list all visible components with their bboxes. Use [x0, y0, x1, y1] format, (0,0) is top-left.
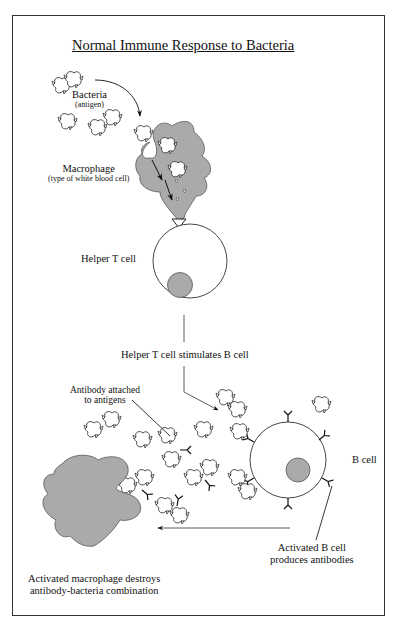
label-bacteria: Bacteria (antigen): [72, 89, 107, 109]
label-antibody-attached-1: Antibody attached: [70, 385, 140, 395]
immune-response-diagram: [0, 0, 398, 631]
label-antibody-attached: Antibody attached to antigens: [70, 385, 140, 406]
label-macrophage-destroys: Activated macrophage destroys antibody-b…: [28, 573, 160, 596]
label-destroys-2: antibody-bacteria combination: [28, 585, 160, 597]
label-macrophage: Macrophage (type of white blood cell): [48, 163, 129, 183]
activated-macrophage: [43, 455, 141, 546]
label-bacteria-sub: (antigen): [72, 101, 107, 110]
label-helper-t-cell: Helper T cell: [81, 253, 136, 265]
b-cell: [250, 422, 326, 498]
helper-t-nucleus: [168, 273, 193, 298]
label-bacteria-main: Bacteria: [72, 89, 107, 101]
label-destroys-1: Activated macrophage destroys: [28, 573, 160, 585]
label-b-cell: B cell: [352, 454, 377, 466]
label-stimulates: Helper T cell stimulates B cell: [121, 349, 249, 361]
label-activated-b-cell: Activated B cell produces antibodies: [270, 542, 354, 565]
label-macrophage-sub: (type of white blood cell): [48, 175, 129, 184]
arrow-t-to-b: [184, 366, 218, 410]
diagram-title: Normal Immune Response to Bacteria: [72, 38, 294, 54]
label-antibody-attached-2: to antigens: [70, 395, 140, 405]
label-activated-b-2: produces antibodies: [270, 554, 354, 566]
b-cell-nucleus: [286, 458, 310, 482]
label-macrophage-main: Macrophage: [48, 163, 129, 175]
label-activated-b-1: Activated B cell: [270, 542, 354, 554]
